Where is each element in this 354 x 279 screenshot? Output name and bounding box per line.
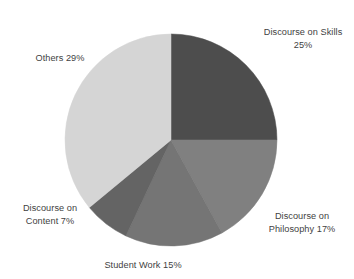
pie-label-discourse-on-skills: Discourse on Skills 25% bbox=[253, 26, 353, 52]
pie-label-student-work: Student Work 15% bbox=[78, 259, 208, 272]
pie-label-others: Others 29% bbox=[12, 52, 108, 65]
pie-label-discourse-on-philosophy: Discourse on Philosophy 17% bbox=[252, 210, 352, 236]
pie-chart-figure: Discourse on Skills 25% Discourse on Phi… bbox=[0, 0, 354, 279]
pie-label-discourse-on-content: Discourse on Content 7% bbox=[2, 202, 98, 228]
